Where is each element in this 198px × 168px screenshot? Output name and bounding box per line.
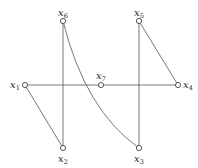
label-x7: x7 [96, 70, 106, 83]
label-x2: x2 [58, 153, 68, 166]
edge-x5-x4 [139, 21, 178, 85]
node-x2[interactable] [60, 145, 65, 150]
label-x3: x3 [134, 153, 144, 166]
node-x1[interactable] [22, 82, 27, 87]
graph-diagram: x1 x2 x3 x4 x5 x6 x7 [0, 0, 198, 168]
nodes [22, 18, 180, 150]
label-x5: x5 [134, 7, 144, 20]
node-x4[interactable] [175, 82, 180, 87]
label-x4: x4 [183, 79, 193, 92]
edge-x1-x2 [25, 85, 63, 148]
node-x7[interactable] [98, 82, 103, 87]
node-x3[interactable] [136, 145, 141, 150]
label-x6: x6 [58, 7, 68, 20]
label-x1: x1 [10, 79, 20, 92]
